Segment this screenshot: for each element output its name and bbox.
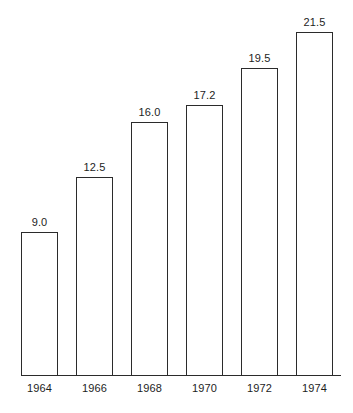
bar-1974 [296, 32, 333, 375]
x-tick-label-1966: 1966 [66, 382, 123, 394]
bar-chart-figure: 9.0196412.5196616.0196817.2197019.519722… [0, 0, 353, 413]
bar-value-label-1972: 19.5 [231, 52, 288, 64]
x-tick-label-1964: 1964 [11, 382, 68, 394]
bar-value-label-1964: 9.0 [11, 216, 68, 228]
bar-1964 [21, 232, 58, 375]
bar-value-label-1974: 21.5 [286, 16, 343, 28]
x-tick-label-1968: 1968 [121, 382, 178, 394]
bar-value-label-1970: 17.2 [176, 89, 233, 101]
bar-1966 [76, 177, 113, 375]
x-axis-line [21, 375, 341, 376]
x-tick-label-1970: 1970 [176, 382, 233, 394]
x-tick-label-1972: 1972 [231, 382, 288, 394]
bar-1972 [241, 68, 278, 375]
bar-value-label-1968: 16.0 [121, 106, 178, 118]
bar-1970 [186, 105, 223, 375]
x-tick-label-1974: 1974 [286, 382, 343, 394]
bar-1968 [131, 122, 168, 375]
bar-value-label-1966: 12.5 [66, 161, 123, 173]
plot-area: 9.0196412.5196616.0196817.2197019.519722… [0, 0, 353, 413]
